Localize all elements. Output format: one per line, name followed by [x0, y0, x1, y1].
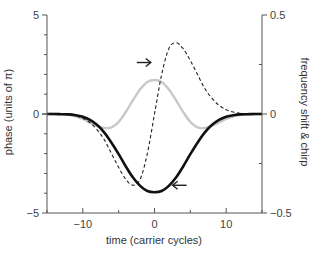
tick-labels: −1001050−50.50−0.5 — [26, 9, 291, 230]
arrow-right-icon — [137, 59, 151, 67]
y-axis-left-label: phase (units of π) — [2, 69, 14, 155]
x-tick-label: 10 — [220, 218, 232, 230]
x-tick-label: 0 — [151, 218, 157, 230]
y-tick-label: −5 — [26, 207, 39, 219]
series-chirp — [47, 43, 262, 186]
series-frequency-shift — [47, 80, 262, 128]
y-right-tick-label: 0 — [270, 108, 276, 120]
y-right-tick-label: 0.5 — [270, 9, 285, 21]
chart: −1001050−50.50−0.5 time (carrier cycles)… — [0, 0, 317, 253]
y-tick-label: 0 — [33, 108, 39, 120]
x-tick-label: −10 — [73, 218, 92, 230]
x-axis-label: time (carrier cycles) — [106, 234, 202, 246]
plot-curves — [47, 43, 262, 192]
annotations — [137, 59, 187, 190]
y-tick-label: 5 — [33, 9, 39, 21]
series-phase — [47, 114, 262, 192]
y-right-tick-label: −0.5 — [270, 207, 292, 219]
arrow-left-icon — [173, 181, 187, 189]
y-axis-right-label: frequency shift & chirp — [299, 58, 311, 167]
